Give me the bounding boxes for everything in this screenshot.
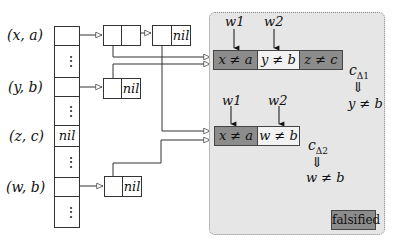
- watch-label-w1: w1: [222, 94, 241, 107]
- literal-z-ne-c: z ≠ c: [299, 50, 343, 70]
- literal-x-ne-a: x ≠ a: [214, 126, 258, 146]
- implies-arrow-icon: ⇓: [311, 155, 323, 169]
- clause-name-c-delta2: cΔ2: [308, 137, 328, 156]
- watch-label-w2: w2: [268, 94, 287, 107]
- implied-literal-w-ne-b: w ≠ b: [306, 171, 345, 184]
- literal-x-ne-a: x ≠ a: [213, 50, 258, 70]
- clause-name-c-delta1: cΔ1: [349, 62, 369, 81]
- legend-falsified: falsified: [331, 210, 376, 230]
- implies-arrow-icon: ⇓: [352, 80, 364, 94]
- literal-w-ne-b: w ≠ b: [257, 126, 300, 146]
- literal-y-ne-b: y ≠ b: [257, 50, 300, 70]
- implied-literal-y-ne-b: y ≠ b: [348, 97, 383, 110]
